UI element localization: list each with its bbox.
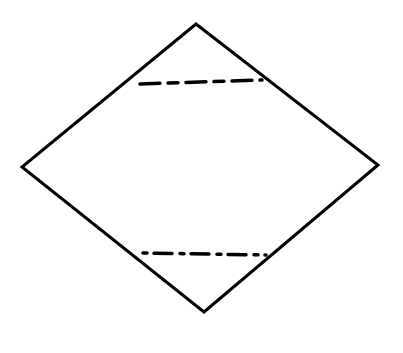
upper-dashed-fold-line [140, 80, 262, 84]
diagram-canvas [0, 0, 403, 353]
rhombus-outline [22, 24, 378, 312]
lower-dashed-fold-line [143, 253, 266, 255]
